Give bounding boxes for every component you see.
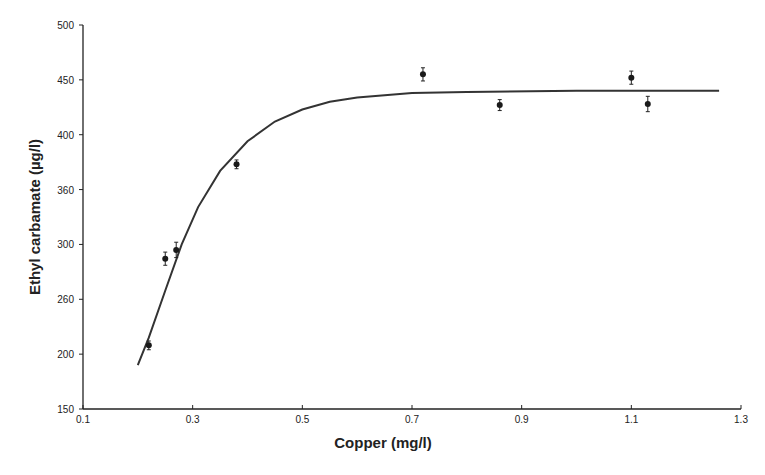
y-tick-label: 360 (57, 185, 74, 196)
y-tick-label: 400 (57, 130, 74, 141)
y-tick-label: 500 (57, 20, 74, 31)
chart: 0.10.30.50.70.91.11.3 150200260300360400… (0, 0, 765, 475)
x-axis-ticks: 0.10.30.50.70.91.11.3 (76, 405, 748, 425)
x-axis-title: Copper (mg/l) (334, 434, 432, 451)
y-tick-label: 260 (57, 294, 74, 305)
data-point (497, 100, 503, 111)
x-tick-label: 0.3 (186, 414, 200, 425)
x-tick-label: 1.3 (734, 414, 748, 425)
x-tick-label: 0.7 (405, 414, 419, 425)
y-axis-title: Ethyl carbamate (µg/l) (26, 139, 43, 295)
y-tick-label: 150 (57, 404, 74, 415)
x-tick-label: 1.1 (624, 414, 638, 425)
data-points (146, 68, 651, 350)
y-tick-label: 200 (57, 349, 74, 360)
x-tick-label: 0.9 (515, 414, 529, 425)
data-point (420, 68, 426, 81)
x-tick-label: 0.5 (295, 414, 309, 425)
y-tick-label: 450 (57, 75, 74, 86)
data-point (628, 71, 634, 84)
data-point (234, 160, 240, 169)
y-tick-label: 300 (57, 239, 74, 250)
x-tick-label: 0.1 (76, 414, 90, 425)
data-point (162, 252, 168, 265)
fitted-curve (138, 91, 719, 365)
data-point (645, 96, 651, 111)
y-axis-ticks: 150200260300360400450500 (57, 20, 83, 415)
